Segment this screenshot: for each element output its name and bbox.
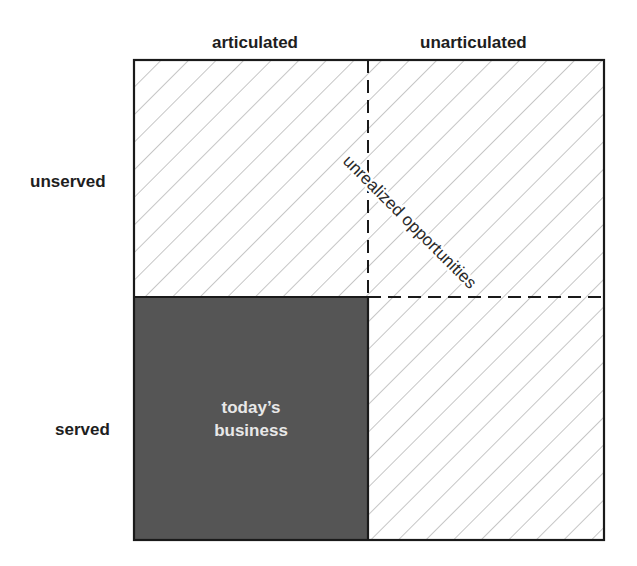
- quadrant-label-line1: today’s: [222, 398, 281, 417]
- quadrant-label-line2: business: [214, 421, 288, 440]
- matrix-diagram: unrealized opportunities unrealized oppo…: [0, 0, 637, 566]
- quadrant-todays-business: [134, 297, 368, 540]
